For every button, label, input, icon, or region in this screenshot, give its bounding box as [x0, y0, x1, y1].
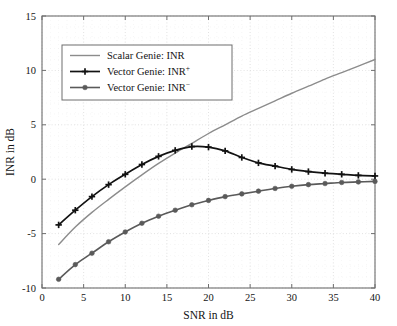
data-marker: [356, 180, 361, 185]
x-tick-label: 15: [162, 292, 173, 303]
y-tick-label: 15: [26, 11, 37, 22]
data-marker: [173, 208, 178, 213]
y-tick-label: 5: [31, 119, 36, 130]
x-tick-label: 25: [245, 292, 256, 303]
y-tick-label: 10: [26, 65, 37, 76]
data-marker: [373, 179, 378, 184]
data-marker: [73, 262, 78, 267]
legend: Scalar Genie: INRVector Genie: INR+Vecto…: [62, 45, 232, 100]
legend-label: Vector Genie: INR+: [107, 64, 190, 77]
data-marker: [106, 239, 111, 244]
x-tick-label: 40: [370, 292, 381, 303]
data-marker: [273, 186, 278, 191]
x-tick-label: 0: [39, 292, 44, 303]
x-tick-label: 5: [81, 292, 86, 303]
inr-vs-snr-line-chart: 0510152025303540 -10-5051015 SNR in dB I…: [0, 0, 397, 326]
data-marker: [323, 181, 328, 186]
data-marker: [190, 202, 195, 207]
data-marker: [289, 184, 294, 189]
x-tick-label: 30: [287, 292, 298, 303]
legend-label: Scalar Genie: INR: [107, 50, 185, 61]
data-marker: [256, 189, 261, 194]
y-tick-label: -10: [22, 283, 36, 294]
data-marker: [339, 180, 344, 185]
data-marker: [56, 277, 61, 282]
chart-figure: 0510152025303540 -10-5051015 SNR in dB I…: [0, 0, 397, 326]
data-marker: [90, 251, 95, 256]
data-marker: [206, 198, 211, 203]
y-axis-title: INR in dB: [4, 128, 16, 176]
x-tick-label: 10: [120, 292, 131, 303]
y-tick-label: 0: [31, 174, 36, 185]
x-axis-title: SNR in dB: [183, 309, 234, 321]
x-tick-label: 20: [203, 292, 214, 303]
legend-label: Vector Genie: INR−: [107, 80, 190, 93]
data-marker: [306, 182, 311, 187]
data-marker: [156, 214, 161, 219]
y-tick-label: -5: [27, 228, 36, 239]
data-marker: [123, 230, 128, 235]
data-marker: [223, 194, 228, 199]
data-marker: [140, 221, 145, 226]
data-marker: [240, 192, 245, 197]
x-tick-label: 35: [328, 292, 339, 303]
data-marker: [83, 85, 88, 90]
